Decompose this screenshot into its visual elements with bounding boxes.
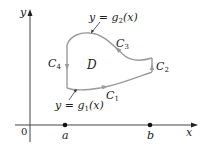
c1-sub: 1 [114, 95, 118, 103]
g1-suffix: (x) [89, 99, 104, 112]
g2-suffix: (x) [123, 11, 138, 24]
y-axis-label: y [20, 7, 26, 18]
region-d-label: D [87, 59, 97, 71]
g2-prefix: y = g [89, 11, 118, 24]
x-axis-label: x [186, 127, 192, 138]
c3-sub: 3 [124, 43, 128, 51]
c2-label: C2 [156, 61, 169, 74]
c2-sub: 2 [164, 66, 168, 74]
c4-sub: 4 [56, 63, 60, 71]
c4-label: C4 [48, 58, 61, 71]
point-a-label: a [62, 130, 69, 141]
c2-direction-arrow-icon [150, 64, 154, 70]
c3-label: C3 [116, 38, 129, 51]
point-a [63, 123, 68, 128]
origin-label: 0 [21, 127, 27, 137]
curve-c1 [67, 72, 152, 90]
g2-function-label: y = g2(x) [89, 12, 138, 25]
curve-c3 [67, 33, 152, 61]
c1-label: C1 [106, 90, 119, 103]
g1-function-label: y = g1(x) [55, 100, 104, 113]
diagram-canvas: y x 0 a b D C4 C3 C2 C1 y = g2(x) y = g1… [0, 0, 204, 149]
g1-prefix: y = g [55, 99, 84, 112]
point-b [148, 123, 153, 128]
point-b-label: b [147, 130, 154, 141]
c4-direction-arrow-icon [65, 64, 69, 70]
y-axis-arrow-icon [28, 9, 33, 16]
